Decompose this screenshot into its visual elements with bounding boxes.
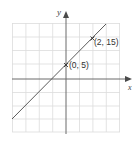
y-axis-label: y	[56, 7, 61, 17]
y-axis-arrow-icon	[63, 11, 69, 18]
point-0-5-label: (0, 5)	[69, 60, 89, 70]
x-axis-label: x	[127, 83, 132, 92]
axes	[12, 16, 128, 134]
graph-canvas: y x (0, 5) (2, 15)	[0, 0, 137, 146]
point-2-15-label: (2, 15)	[94, 37, 119, 47]
x-axis-arrow-icon	[125, 76, 132, 82]
